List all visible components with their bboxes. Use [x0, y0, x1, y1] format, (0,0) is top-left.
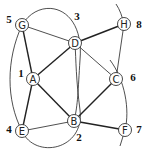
node-a: A1 — [18, 67, 39, 86]
edge-e-b — [22, 121, 74, 131]
node-d: D3 — [69, 10, 82, 50]
node-number: 7 — [136, 123, 142, 135]
node-b: B2 — [68, 115, 83, 144]
edge-b-f — [74, 121, 125, 130]
edge-d-c — [75, 43, 116, 79]
edge-d-a — [33, 43, 75, 79]
edge-a-b — [33, 79, 74, 121]
node-letter: C — [113, 74, 120, 85]
node-g: G5 — [6, 13, 28, 32]
node-letter: E — [19, 126, 25, 137]
node-e: E4 — [6, 123, 28, 138]
node-number: 2 — [76, 131, 82, 143]
node-number: 6 — [130, 71, 136, 83]
edge-b-c — [74, 79, 116, 121]
node-letter: F — [122, 125, 128, 136]
node-letter: G — [18, 20, 26, 31]
node-number: 1 — [18, 67, 24, 79]
node-h: H8 — [118, 18, 143, 31]
node-letter: H — [120, 19, 128, 30]
node-f: F7 — [119, 123, 143, 137]
node-number: 8 — [136, 18, 142, 30]
edge-d-h — [75, 24, 124, 43]
edge-a-e — [22, 79, 33, 131]
node-letter: D — [71, 38, 79, 49]
node-letter: A — [30, 74, 37, 85]
node-number: 3 — [74, 10, 80, 22]
arc-e-d — [22, 43, 80, 148]
node-number: 4 — [6, 123, 12, 135]
edge-g-d — [22, 25, 75, 43]
node-letter: B — [71, 116, 78, 127]
arc-c-f — [110, 60, 127, 130]
node-c: C6 — [110, 71, 137, 86]
graph-diagram: G5D3H8A1C6E4B2F7 — [0, 0, 147, 154]
edge-h-c — [116, 24, 124, 79]
node-number: 5 — [6, 13, 12, 25]
